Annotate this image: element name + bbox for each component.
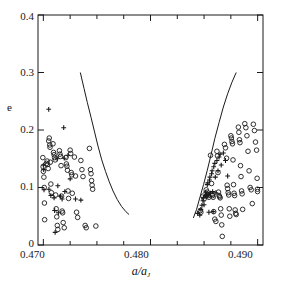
left-resonance-boundary — [80, 73, 129, 215]
y-tick-label-0-3: 0.3 — [2, 66, 34, 78]
y-axis-title: e — [7, 101, 12, 113]
x-tick-label-0-490: 0.490 — [228, 248, 253, 260]
axis-ticks — [38, 15, 263, 245]
x-axis-title-subscript: J — [147, 271, 150, 279]
plot-frame — [38, 15, 263, 245]
x-tick-label-0-480: 0.480 — [124, 248, 149, 260]
y-tick-label-0-4: 0.4 — [2, 10, 34, 22]
y-tick-label-0-2: 0.2 — [2, 123, 34, 135]
scatter-plot-figure: 0.4 0.3 0.2 0.1 0 e 0.470 0.480 0.490 a/… — [0, 0, 282, 287]
x-tick-label-0-470: 0.470 — [20, 248, 45, 260]
plot-canvas — [0, 0, 282, 287]
y-tick-label-0-1: 0.1 — [2, 180, 34, 192]
x-axis-title-main: a/a — [132, 264, 147, 278]
x-axis-title: a/aJ — [0, 264, 282, 279]
open-circle-markers — [41, 121, 260, 238]
